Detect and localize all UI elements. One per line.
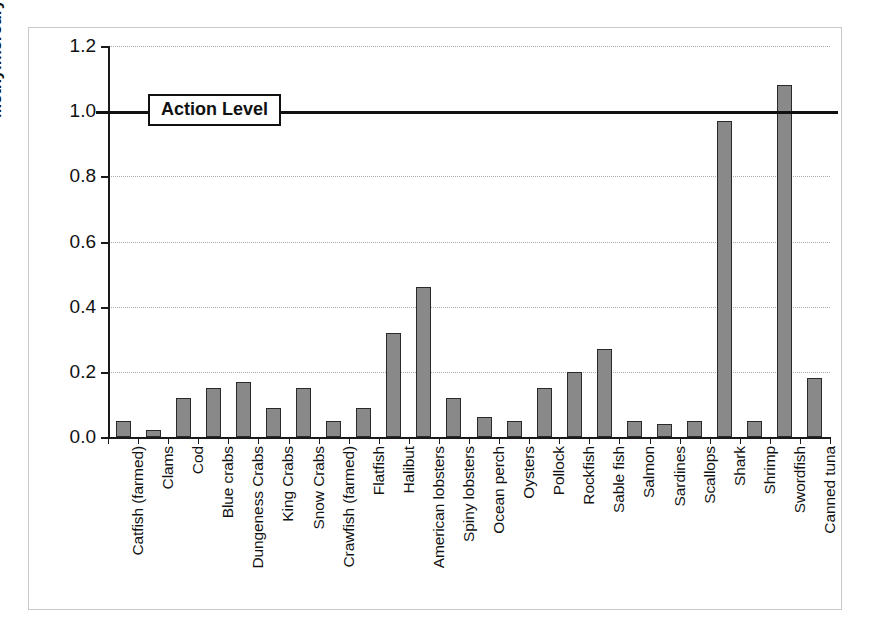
- bar: [687, 421, 702, 437]
- x-tick-mark: [409, 437, 410, 444]
- x-tick-labels: Catfish (farmed)ClamsCodBlue crabsDungen…: [108, 446, 830, 616]
- x-tick-label: Snow Crabs: [310, 446, 328, 529]
- x-tick-mark: [138, 437, 139, 444]
- x-tick-label: Dungeness Crabs: [249, 446, 267, 569]
- bar: [206, 388, 221, 437]
- x-tick-mark: [589, 437, 590, 444]
- y-tick-mark: [101, 307, 108, 309]
- y-tick-label: 0.4: [8, 297, 96, 316]
- x-tick-mark: [710, 437, 711, 444]
- y-tick-label: 1.0: [8, 101, 96, 120]
- x-tick-mark: [800, 437, 801, 444]
- x-tick-label: Oysters: [520, 446, 538, 499]
- x-tick-mark: [258, 437, 259, 444]
- x-tick-label: Halibut: [400, 446, 418, 494]
- x-tick-mark: [228, 437, 229, 444]
- y-tick-label: 0.0: [8, 427, 96, 446]
- x-tick-mark: [469, 437, 470, 444]
- y-tick-mark: [101, 372, 108, 374]
- x-tick-mark: [379, 437, 380, 444]
- x-tick-label: Pollock: [550, 446, 568, 495]
- bar: [416, 287, 431, 437]
- x-tick-label: Sardines: [671, 446, 689, 506]
- x-tick-mark: [319, 437, 320, 444]
- x-tick-mark: [198, 437, 199, 444]
- bar: [777, 85, 792, 437]
- x-tick-label: Canned tuna: [821, 446, 839, 534]
- bar: [807, 378, 822, 437]
- chart-figure: Methylmercury (mg/kg) 0.00.20.40.60.81.0…: [0, 0, 878, 637]
- x-tick-label: American lobsters: [430, 446, 448, 568]
- x-tick-label: Clams: [159, 446, 177, 489]
- x-tick-mark: [680, 437, 681, 444]
- x-tick-mark: [529, 437, 530, 444]
- x-tick-label: Crawfish (farmed): [340, 446, 358, 567]
- x-tick-label: Blue crabs: [219, 446, 237, 518]
- x-tick-label: Swordfish: [791, 446, 809, 513]
- x-tick-mark: [289, 437, 290, 444]
- x-tick-mark: [168, 437, 169, 444]
- y-tick-label: 0.8: [8, 166, 96, 185]
- x-tick-mark: [830, 437, 831, 444]
- bar: [386, 333, 401, 437]
- bar: [356, 408, 371, 437]
- y-tick-mark: [101, 176, 108, 178]
- x-tick-mark: [740, 437, 741, 444]
- x-tick-label: Scallops: [701, 446, 719, 504]
- x-tick-label: Catfish (farmed): [129, 446, 147, 556]
- bar: [296, 388, 311, 437]
- x-tick-label: Ocean perch: [490, 446, 508, 534]
- y-tick-mark: [101, 242, 108, 244]
- x-tick-mark: [650, 437, 651, 444]
- x-tick-mark: [499, 437, 500, 444]
- x-tick-mark: [559, 437, 560, 444]
- bar: [326, 421, 341, 437]
- bar: [747, 421, 762, 437]
- bar: [717, 121, 732, 437]
- bar: [446, 398, 461, 437]
- y-tick-label: 0.2: [8, 362, 96, 381]
- bar: [567, 372, 582, 437]
- x-tick-mark: [619, 437, 620, 444]
- x-tick-mark: [349, 437, 350, 444]
- bar: [176, 398, 191, 437]
- bar: [236, 382, 251, 437]
- x-tick-mark: [770, 437, 771, 444]
- x-tick-label: Sable fish: [610, 446, 628, 513]
- x-tick-label: King Crabs: [279, 446, 297, 522]
- x-tick-mark: [108, 437, 109, 444]
- bar: [537, 388, 552, 437]
- x-tick-label: Flatfish: [370, 446, 388, 495]
- bar: [597, 349, 612, 437]
- y-tick-mark: [101, 437, 108, 439]
- y-tick-label: 0.6: [8, 232, 96, 251]
- y-tick-mark: [101, 46, 108, 48]
- bar: [657, 424, 672, 437]
- bar: [266, 408, 281, 437]
- bar: [116, 421, 131, 437]
- x-tick-label: Spiny lobsters: [460, 446, 478, 542]
- x-tick-label: Shark: [731, 446, 749, 486]
- action-level-label: Action Level: [148, 94, 281, 126]
- bar: [627, 421, 642, 437]
- x-tick-label: Shrimp: [761, 446, 779, 495]
- bar: [146, 430, 161, 437]
- x-tick-label: Salmon: [640, 446, 658, 498]
- x-tick-label: Cod: [189, 446, 207, 474]
- bar: [507, 421, 522, 437]
- bar: [477, 417, 492, 437]
- y-tick-labels: 0.00.20.40.60.81.01.2: [0, 0, 100, 520]
- y-tick-label: 1.2: [8, 36, 96, 55]
- x-tick-label: Rockfish: [580, 446, 598, 505]
- x-tick-mark: [439, 437, 440, 444]
